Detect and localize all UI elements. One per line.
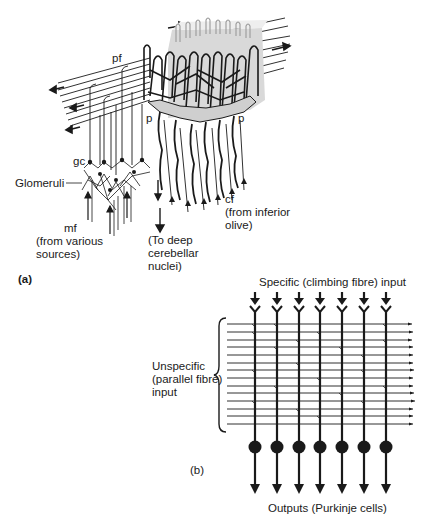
panel-b-matrix	[0, 0, 436, 528]
label-unspecific-1: Unspecific	[152, 360, 205, 373]
label-specific-input: Specific (climbing fibre) input	[259, 276, 406, 289]
cerebellum-figure: pf p p gc Glomeruli mf (from various sou…	[0, 0, 436, 528]
panel-b-label: (b)	[190, 464, 204, 477]
label-unspecific-2: (parallel fibre)	[152, 373, 222, 386]
label-unspecific-3: input	[152, 386, 177, 399]
label-outputs: Outputs (Purkinje cells)	[268, 502, 387, 515]
